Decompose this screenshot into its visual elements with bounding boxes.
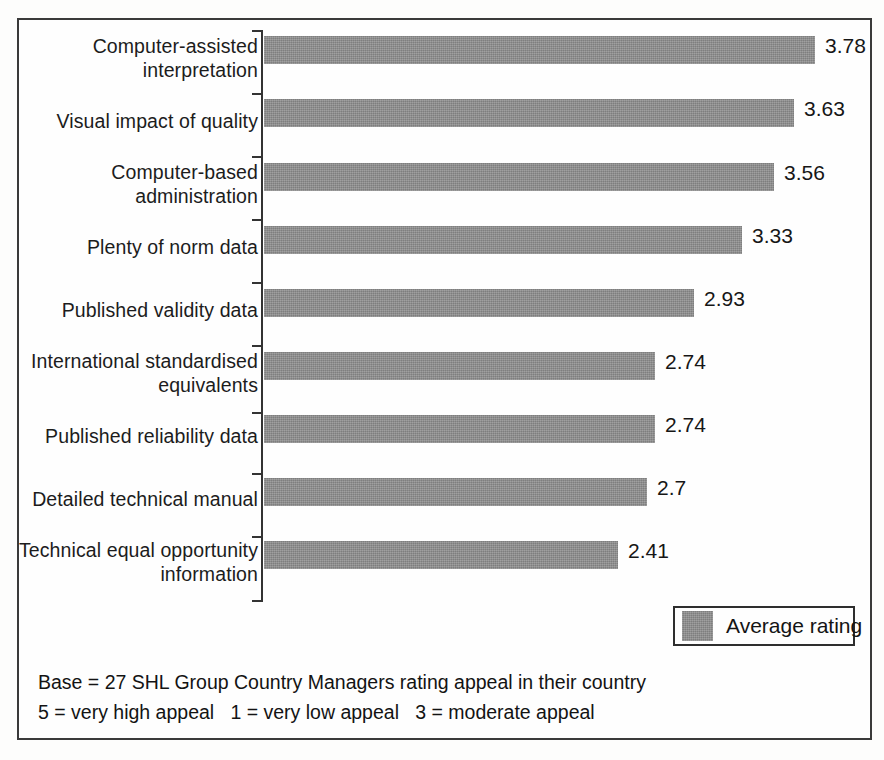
bar (264, 36, 815, 64)
category-label: Computer-based administration (0, 160, 258, 208)
axis-tick (252, 30, 262, 32)
axis-tick (252, 93, 262, 95)
category-label: Published validity data (0, 298, 258, 322)
bar-value-label: 2.93 (704, 285, 745, 313)
axis-tick (252, 600, 262, 602)
category-axis-line (261, 30, 263, 602)
category-label: Plenty of norm data (0, 235, 258, 259)
category-label: Technical equal opportunity information (0, 538, 258, 586)
bar (264, 478, 647, 506)
bar (264, 541, 618, 569)
axis-tick (252, 282, 262, 284)
bar-value-label: 3.78 (825, 32, 866, 60)
plot-area: Computer-assisted interpretation Visual … (0, 0, 884, 760)
bar-value-label: 3.33 (752, 222, 793, 250)
axis-tick (252, 219, 262, 221)
bar-value-label: 2.7 (657, 474, 686, 502)
category-label: Published reliability data (0, 424, 258, 448)
bar-value-label: 3.56 (784, 159, 825, 187)
category-label: Visual impact of quality (0, 109, 258, 133)
chart-page: Computer-assisted interpretation Visual … (0, 0, 884, 760)
bar-value-label: 2.74 (665, 348, 706, 376)
bar (264, 352, 655, 380)
bar (264, 289, 694, 317)
axis-tick (252, 412, 262, 414)
bar (264, 163, 774, 191)
footnote-base: Base = 27 SHL Group Country Managers rat… (38, 669, 646, 695)
legend-label: Average rating (726, 612, 862, 640)
bar (264, 99, 794, 127)
category-label: International standardised equivalents (0, 349, 258, 397)
category-label: Computer-assisted interpretation (0, 34, 258, 82)
category-label: Detailed technical manual (0, 487, 258, 511)
axis-tick (252, 473, 262, 475)
bar-value-label: 3.63 (804, 95, 845, 123)
footnote-scale: 5 = very high appeal 1 = very low appeal… (38, 699, 595, 725)
bar (264, 226, 742, 254)
bar-value-label: 2.74 (665, 411, 706, 439)
legend-swatch-average-rating (682, 611, 713, 641)
axis-tick (252, 156, 262, 158)
axis-tick (252, 345, 262, 347)
bar (264, 415, 655, 443)
bar-value-label: 2.41 (628, 537, 669, 565)
